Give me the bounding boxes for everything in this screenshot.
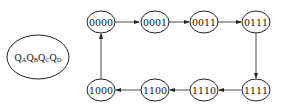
state-label: 1110 bbox=[192, 85, 216, 96]
state-label: 0111 bbox=[244, 17, 268, 28]
state-node-0000: 0000 bbox=[87, 11, 115, 33]
state-diagram: QAQBQCQD 0000 0001 0011 0111 1111 1110 1… bbox=[0, 0, 286, 112]
state-node-0001: 0001 bbox=[141, 11, 169, 33]
state-label: 1111 bbox=[244, 85, 268, 96]
state-label: 0000 bbox=[89, 17, 113, 28]
state-node-1000: 1000 bbox=[87, 79, 115, 101]
state-node-1110: 1110 bbox=[190, 79, 218, 101]
state-node-1111: 1111 bbox=[242, 79, 270, 101]
state-node-0011: 0011 bbox=[190, 11, 218, 33]
state-variable-legend: QAQBQCQD bbox=[7, 35, 69, 79]
state-label: 1000 bbox=[89, 85, 113, 96]
state-node-0111: 0111 bbox=[242, 11, 270, 33]
legend-text: QAQBQCQD bbox=[14, 52, 61, 63]
state-label: 1100 bbox=[143, 85, 167, 96]
state-label: 0011 bbox=[192, 17, 216, 28]
state-node-1100: 1100 bbox=[141, 79, 169, 101]
state-label: 0001 bbox=[143, 17, 167, 28]
